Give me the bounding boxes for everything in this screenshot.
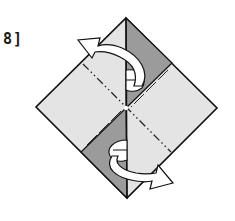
center-point	[124, 106, 128, 110]
origami-diagram	[0, 0, 235, 221]
